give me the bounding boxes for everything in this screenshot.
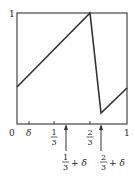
- svg-text:1: 1: [63, 153, 68, 162]
- svg-text:1: 1: [52, 128, 57, 137]
- plot-frame: [17, 13, 127, 124]
- svg-text:+ δ: + δ: [71, 158, 87, 168]
- arrow-two-thirds-plus-delta: [99, 124, 103, 151]
- svg-text:3: 3: [88, 138, 93, 147]
- svg-text:3: 3: [52, 138, 57, 147]
- annotation-one-third-plus-delta: 1 3 + δ: [62, 153, 87, 172]
- y-tick-1: 1: [9, 9, 15, 19]
- function-line: [17, 13, 127, 113]
- chart-canvas: 1 0 δ 1 1 3 2 3 1 3 + δ 2 3 + δ: [0, 0, 135, 180]
- svg-text:3: 3: [63, 163, 68, 172]
- svg-text:+ δ: + δ: [109, 158, 125, 168]
- x-tick-0: 0: [9, 128, 15, 138]
- svg-text:3: 3: [101, 163, 106, 172]
- x-tick-two-thirds: 2 3: [87, 128, 94, 147]
- svg-text:2: 2: [101, 153, 106, 162]
- arrow-one-third-plus-delta: [64, 124, 68, 151]
- annotation-two-thirds-plus-delta: 2 3 + δ: [100, 153, 125, 172]
- x-tick-one-third: 1 3: [51, 128, 58, 147]
- x-tick-1: 1: [124, 128, 130, 138]
- x-tick-delta: δ: [26, 128, 31, 138]
- svg-text:2: 2: [88, 128, 93, 137]
